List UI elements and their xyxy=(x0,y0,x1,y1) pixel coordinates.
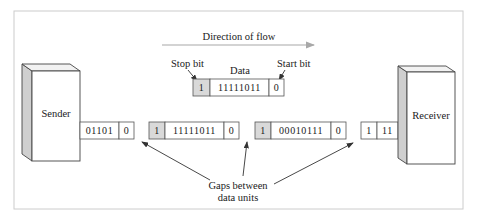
svg-text:11: 11 xyxy=(382,125,393,136)
start-bit-label: Start bit xyxy=(277,58,311,69)
svg-text:11111011: 11111011 xyxy=(173,125,216,136)
data-unit-3: 1 00010111 0 xyxy=(255,122,346,139)
gaps-label-line2: data units xyxy=(218,192,259,203)
sender-device: Sender xyxy=(22,64,80,161)
async-transmission-diagram: Direction of flow Stop bit Data Start bi… xyxy=(0,0,479,219)
svg-text:00010111: 00010111 xyxy=(279,125,323,136)
legend-start-bit: 0 xyxy=(274,82,280,93)
data-unit-4: 1 11 xyxy=(361,122,398,139)
gaps-label-line1: Gaps between xyxy=(208,180,268,191)
receiver-label: Receiver xyxy=(412,110,450,121)
svg-text:0: 0 xyxy=(336,125,342,136)
legend-stop-bit: 1 xyxy=(199,82,205,93)
legend-data-bits: 11111011 xyxy=(218,82,261,93)
sender-label: Sender xyxy=(41,108,71,119)
direction-label: Direction of flow xyxy=(203,31,276,42)
svg-text:01101: 01101 xyxy=(86,125,114,136)
receiver-device: Receiver xyxy=(398,66,455,164)
svg-text:0: 0 xyxy=(229,125,235,136)
svg-text:1: 1 xyxy=(366,125,372,136)
stop-bit-label: Stop bit xyxy=(171,58,204,69)
data-unit-2: 1 11111011 0 xyxy=(149,122,239,139)
svg-text:0: 0 xyxy=(124,125,130,136)
svg-text:1: 1 xyxy=(154,125,160,136)
svg-text:1: 1 xyxy=(260,125,266,136)
data-unit-1: 01101 0 xyxy=(80,122,134,139)
data-label: Data xyxy=(230,65,250,76)
